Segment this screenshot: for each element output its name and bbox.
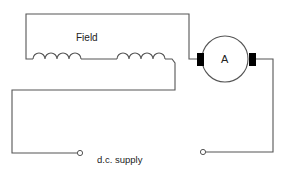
supply-label: d.c. supply [97,154,143,165]
supply-terminal-right [200,149,205,154]
brush-left [197,53,204,66]
brush-right [249,53,256,66]
wire-top [26,14,197,59]
field-label: Field [76,32,98,43]
field-coil-2 [117,53,165,59]
armature-label: A [221,53,229,65]
circuit-diagram: Field A d.c. supply [0,0,289,176]
wire-field-to-supply [12,59,175,153]
field-coil-1 [33,53,81,59]
supply-terminal-left [77,150,82,155]
